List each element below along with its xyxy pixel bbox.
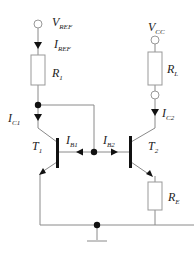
iref-sub: REF	[58, 45, 71, 53]
t1-main: T	[32, 139, 39, 153]
base-node	[91, 149, 97, 155]
t2-sub: 2	[155, 147, 159, 155]
t2-main: T	[148, 139, 155, 153]
vref-terminal	[34, 20, 42, 28]
vcc-terminal	[151, 36, 159, 44]
re-resistor	[148, 182, 162, 210]
r1-label: R1	[52, 67, 63, 82]
r1-sub: 1	[59, 74, 63, 82]
ic1-label: IC1	[8, 112, 20, 127]
output-terminal	[151, 91, 159, 99]
t1-base-bar	[56, 138, 59, 168]
t1-label: T1	[32, 140, 42, 155]
ib1-label: IB1	[66, 134, 78, 149]
rl-resistor	[148, 52, 162, 85]
re-sub: E	[175, 198, 179, 206]
ground-node	[94, 222, 100, 228]
ib1-arrow-icon	[76, 149, 83, 156]
t2-label: T2	[148, 140, 158, 155]
t2-emitter-arrow-icon	[146, 170, 153, 177]
circuit-diagram	[0, 0, 194, 254]
ic2-arrow-icon	[151, 109, 159, 116]
vref-sub: REF	[59, 23, 72, 31]
vref-label: VREF	[52, 16, 72, 31]
ib2-arrow-icon	[111, 149, 118, 156]
t1-emitter-arrow-icon	[39, 168, 46, 175]
iref-label: IREF	[54, 38, 71, 53]
ic2-label: IC2	[162, 107, 174, 122]
ib1-sub: B1	[70, 141, 78, 149]
rl-label: RL	[167, 63, 178, 78]
ib2-label: IB2	[103, 134, 115, 149]
vcc-sub: CC	[155, 28, 164, 36]
re-label: RE	[168, 191, 180, 206]
t1-sub: 1	[39, 147, 43, 155]
r1-resistor	[31, 55, 45, 85]
ic2-sub: C2	[166, 114, 174, 122]
collector-node	[35, 102, 41, 108]
rl-sub: L	[174, 70, 178, 78]
t2-base-bar	[129, 136, 132, 168]
iref-arrow-icon	[34, 42, 42, 49]
ib2-sub: B2	[107, 141, 115, 149]
ic1-sub: C1	[12, 119, 20, 127]
vcc-label: VCC	[148, 21, 165, 36]
ic1-arrow-icon	[34, 114, 42, 121]
